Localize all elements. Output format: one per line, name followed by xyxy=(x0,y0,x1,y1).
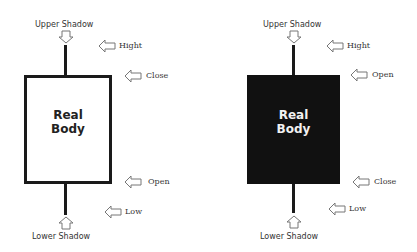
left-lower-wick xyxy=(64,184,67,215)
left-arrow-icon xyxy=(350,69,368,81)
right-close-label: Close xyxy=(374,177,396,186)
left-body-label-line1: Real xyxy=(27,108,109,122)
left-arrow-icon xyxy=(104,206,122,218)
up-arrow-icon xyxy=(58,217,74,230)
left-open-label: Open xyxy=(148,177,170,186)
left-body-label-line2: Body xyxy=(27,122,109,136)
right-upper-wick xyxy=(292,45,295,76)
right-body-label-line1: Real xyxy=(247,108,340,122)
left-arrow-icon xyxy=(326,40,344,52)
left-upper-shadow-label: Upper Shadow xyxy=(35,20,93,29)
right-open-label: Open xyxy=(372,70,394,79)
left-arrow-icon xyxy=(328,203,346,215)
right-lower-shadow-label: Lower Shadow xyxy=(260,232,318,241)
left-arrow-icon xyxy=(98,40,116,52)
left-arrow-icon xyxy=(124,70,142,82)
left-arrow-icon xyxy=(352,176,370,188)
left-low-label: Low xyxy=(125,207,142,216)
left-close-label: Close xyxy=(146,71,168,80)
right-body-label-line2: Body xyxy=(247,122,340,136)
right-lower-wick xyxy=(292,184,295,213)
left-real-body: Real Body xyxy=(24,75,112,184)
up-arrow-icon xyxy=(286,216,302,229)
down-arrow-icon xyxy=(286,31,302,44)
left-high-label: Hight xyxy=(119,41,142,50)
right-low-label: Low xyxy=(349,204,366,213)
left-lower-shadow-label: Lower Shadow xyxy=(32,232,90,241)
right-upper-shadow-label: Upper Shadow xyxy=(263,20,321,29)
right-real-body: Real Body xyxy=(247,75,340,184)
right-high-label: Hight xyxy=(347,41,370,50)
left-upper-wick xyxy=(64,45,67,76)
down-arrow-icon xyxy=(58,31,74,44)
left-arrow-icon xyxy=(124,176,142,188)
